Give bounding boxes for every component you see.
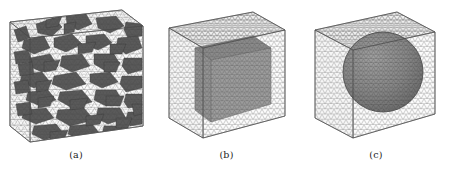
panel-c-caption: (c)	[301, 150, 451, 160]
front-face-mesh-b	[157, 0, 297, 148]
aggregate-particles-a	[0, 0, 152, 148]
panel-a-caption: (a)	[0, 150, 152, 160]
panel-b-caption: (b)	[157, 150, 297, 160]
front-face-mesh-c	[301, 0, 451, 148]
mesh-render-a	[0, 0, 152, 148]
figure-panel-row: (a)	[0, 0, 451, 170]
mesh-render-c	[301, 0, 451, 148]
figure-panel-b: (b)	[157, 0, 297, 170]
figure-panel-a: (a)	[0, 0, 152, 170]
panel-c-canvas	[301, 0, 451, 148]
panel-a-canvas	[0, 0, 152, 148]
panel-b-canvas	[157, 0, 297, 148]
figure-panel-c: (c)	[301, 0, 451, 170]
mesh-render-b	[157, 0, 297, 148]
